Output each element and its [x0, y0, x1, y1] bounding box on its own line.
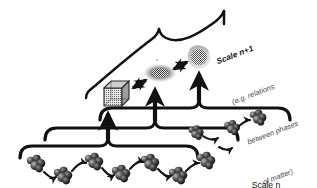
interaction-arrow	[130, 162, 143, 169]
cube-to-cloud-arrow	[133, 80, 146, 88]
brace-middle	[45, 121, 238, 140]
figure-canvas: Scale n+1 (e.g. relations between phases…	[0, 0, 317, 188]
solid-phase-cube-icon	[104, 81, 129, 106]
scale-n-plus-1-detail-line2: between phases	[247, 120, 300, 147]
molecule-cluster	[197, 152, 215, 170]
scale-n-plus-1-title: Scale n+1	[215, 39, 268, 67]
molecule-cluster	[112, 165, 130, 183]
scale-n-plus-1-detail-line1: (e.g. relations	[231, 80, 284, 107]
gas-phase-cloud-icon	[142, 59, 178, 83]
molecule-cluster	[27, 155, 45, 173]
scale-n-label: Scale n (e.g. molecular interactions)	[218, 146, 314, 188]
interaction-arrow	[203, 136, 218, 140]
molecule-cluster	[224, 120, 240, 135]
interaction-arrow	[186, 163, 199, 171]
cloud-to-disc-arrow	[174, 62, 187, 69]
interaction-arrow	[72, 163, 86, 171]
scale-n-title: Scale n	[218, 181, 314, 188]
molecule-cluster	[54, 167, 72, 185]
molecule-cluster	[85, 153, 103, 171]
brace-left	[20, 139, 198, 158]
liquid-phase-disc-icon	[188, 46, 211, 69]
